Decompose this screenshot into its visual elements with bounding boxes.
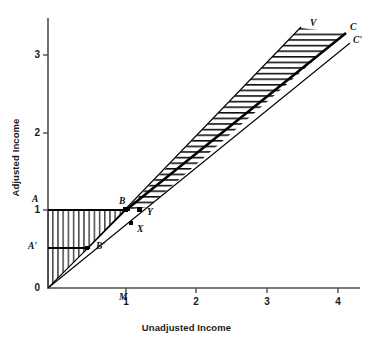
y-tick-label-3: 3 <box>24 49 40 60</box>
line-C <box>126 33 346 210</box>
label-point-M: M <box>119 292 127 302</box>
marker-B <box>123 207 128 212</box>
x-tick-label-4: 4 <box>326 296 350 307</box>
label-point-X: X <box>137 224 143 234</box>
label-point-B-prime: B' <box>96 241 105 251</box>
line-V <box>87 27 301 249</box>
x-tick-label-3: 3 <box>255 296 279 307</box>
x-tick-label-2: 2 <box>184 296 208 307</box>
plot-canvas <box>0 0 373 339</box>
chart-figure: Unadjusted Income Adjusted Income 1 2 3 … <box>0 0 373 339</box>
marker-X <box>129 221 133 225</box>
y-tick-label-2: 2 <box>24 127 40 138</box>
label-point-B: B <box>119 196 125 206</box>
label-line-V: V <box>310 18 316 28</box>
marker-Y <box>137 207 142 212</box>
y-axis-title: Adjusted Income <box>10 103 21 213</box>
label-point-A: A <box>32 194 38 204</box>
origin-label: 0 <box>24 282 40 293</box>
y-tick-label-1: 1 <box>24 204 40 215</box>
x-axis-title: Unadjusted Income <box>0 322 373 333</box>
label-point-Y: Y <box>147 207 153 217</box>
line-C-prime <box>48 43 350 288</box>
label-line-C-prime: C' <box>353 35 362 45</box>
label-line-C: C <box>350 22 356 32</box>
label-point-A-prime: A' <box>28 241 37 251</box>
marker-B-prime <box>85 246 89 250</box>
